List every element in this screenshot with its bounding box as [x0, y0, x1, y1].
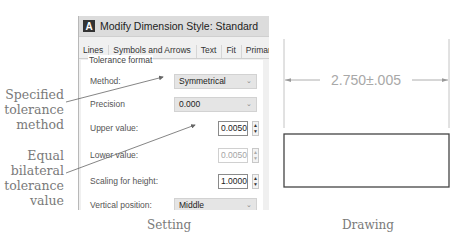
dimension-text: 2.750±.005 [331, 72, 401, 88]
setting-caption: Setting [147, 218, 191, 232]
part-rectangle [284, 134, 449, 187]
drawing-area: 2.750±.005 [0, 0, 460, 238]
drawing-caption: Drawing [342, 218, 394, 232]
